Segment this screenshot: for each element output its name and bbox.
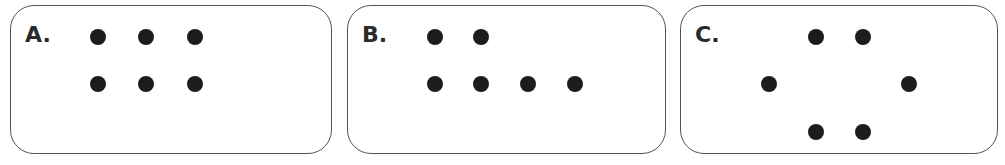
dot — [567, 76, 583, 92]
panel-a: A. — [10, 5, 332, 154]
dot — [808, 29, 824, 45]
dot — [187, 29, 203, 45]
panel-c-label: C. — [695, 24, 720, 46]
dot — [761, 76, 777, 92]
dot — [90, 76, 106, 92]
dot — [901, 76, 917, 92]
dot — [855, 124, 871, 140]
panel-a-label: A. — [25, 24, 51, 46]
dot — [473, 76, 489, 92]
dot — [427, 29, 443, 45]
panel-c: C. — [680, 5, 998, 154]
dot — [138, 76, 154, 92]
dot — [187, 76, 203, 92]
dot — [138, 29, 154, 45]
dot — [855, 29, 871, 45]
dot — [473, 29, 489, 45]
dot — [808, 124, 824, 140]
panel-b-label: B. — [362, 24, 387, 46]
panel-b: B. — [347, 5, 666, 154]
dot — [520, 76, 536, 92]
dot — [90, 29, 106, 45]
dot — [427, 76, 443, 92]
